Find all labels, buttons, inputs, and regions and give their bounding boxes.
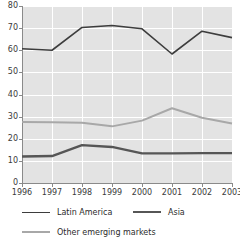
gridline-vertical [232, 6, 233, 183]
series-lines [22, 6, 232, 183]
x-axis-tick [202, 184, 203, 187]
legend-swatch-line-icon [22, 231, 50, 233]
x-axis-tick [172, 184, 173, 187]
plot-wrapper: 01020304050607080 1996199719981999200020… [0, 0, 240, 190]
x-axis-tick [52, 184, 53, 187]
x-axis-tick [142, 184, 143, 187]
legend-label: Asia [168, 208, 185, 217]
series-line [22, 108, 232, 126]
legend-item[interactable]: Latin America [22, 205, 112, 219]
x-axis-tick-label: 2002 [187, 188, 217, 197]
y-axis-tick-label: 70 [2, 24, 18, 32]
x-axis-tick-label: 1999 [97, 188, 127, 197]
x-axis-tick [112, 184, 113, 187]
y-axis-tick-label: 0 [2, 179, 18, 187]
x-axis-tick [82, 184, 83, 187]
y-axis-tick-label: 40 [2, 91, 18, 99]
x-axis-tick [22, 184, 23, 187]
legend-label: Other emerging markets [57, 228, 156, 237]
line-chart: 01020304050607080 1996199719981999200020… [0, 0, 240, 250]
x-axis-tick-label: 2000 [127, 188, 157, 197]
y-axis-tick-label: 10 [2, 157, 18, 165]
legend-item[interactable]: Asia [133, 205, 185, 219]
y-axis-tick-labels: 01020304050607080 [0, 0, 18, 190]
legend-swatch-line-icon [133, 211, 161, 213]
y-axis-tick-label: 50 [2, 68, 18, 76]
chart-legend: Latin AmericaAsiaOther emerging markets [0, 205, 240, 250]
series-line [22, 25, 232, 54]
y-axis-tick-label: 20 [2, 135, 18, 143]
y-axis-tick-label: 30 [2, 113, 18, 121]
legend-item[interactable]: Other emerging markets [22, 225, 156, 239]
legend-label: Latin America [57, 208, 112, 217]
y-axis-tick-label: 60 [2, 46, 18, 54]
x-axis-tick-label: 2001 [157, 188, 187, 197]
x-axis-tick-label: 1996 [7, 188, 37, 197]
legend-swatch-line-icon [22, 212, 50, 213]
y-axis-tick-label: 80 [2, 2, 18, 10]
x-axis-tick-label: 1997 [37, 188, 67, 197]
x-axis-tick-label: 1998 [67, 188, 97, 197]
x-axis-tick [232, 184, 233, 187]
x-axis-tick-label: 2003 [217, 188, 240, 197]
series-line [22, 145, 232, 156]
